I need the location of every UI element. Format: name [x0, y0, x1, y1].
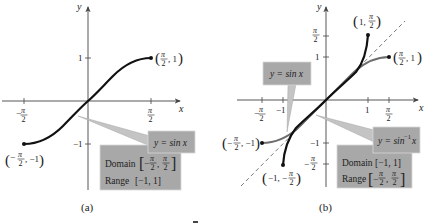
svg-text:[−1, 1]: [−1, 1]	[135, 176, 161, 186]
svg-text:2: 2	[370, 21, 374, 30]
svg-text:(: (	[155, 50, 160, 67]
svg-text:): )	[376, 13, 381, 30]
svg-text:2: 2	[19, 159, 23, 168]
svg-text:]: ]	[171, 155, 176, 172]
svg-text:Domain: Domain	[342, 158, 373, 168]
svg-text:2: 2	[380, 178, 384, 187]
endpoint-neg	[22, 142, 26, 146]
x-tick-label-b-pi-over-2: π 2	[386, 105, 393, 123]
svg-text:y = sin: y = sin	[377, 136, 405, 146]
panel-b: x y − π 2 −1 1 π 2 π 2 1	[222, 1, 424, 214]
svg-text:π: π	[313, 26, 318, 35]
svg-text:2: 2	[260, 114, 264, 123]
svg-text:2: 2	[312, 163, 316, 172]
y-tick-label-b-neg-pi-over-2: − π 2	[304, 154, 318, 172]
svg-text:π: π	[259, 105, 264, 114]
caption-a: (a)	[81, 201, 94, 214]
svg-text:−1, −: −1, −	[268, 173, 287, 183]
svg-text:π: π	[161, 50, 166, 59]
endpoint-b-4	[281, 163, 285, 167]
svg-text:1,: 1,	[359, 17, 366, 27]
svg-text:−: −	[227, 138, 232, 148]
equation-label-sin-b: y = sin x	[269, 69, 304, 79]
svg-text:): )	[178, 50, 183, 67]
y-tick-label-b-neg-1: −1	[310, 138, 320, 148]
x-tick-label-pi-over-2: π 2	[148, 106, 155, 124]
y-tick-label-1: 1	[78, 53, 83, 63]
x-tick-label-b-neg-1: −1	[276, 105, 286, 115]
y-tick-label-b-pi-over-2: π 2	[313, 26, 320, 44]
y-axis-label-b: y	[316, 1, 322, 12]
svg-text:Range: Range	[105, 176, 129, 186]
x-tick-label-b-1: 1	[365, 105, 370, 115]
point-label-1-pi-over-2: ( 1, π 2 )	[353, 12, 381, 30]
svg-text:2: 2	[164, 163, 168, 172]
svg-text:]: ]	[400, 171, 405, 188]
svg-text:π: π	[311, 154, 316, 163]
svg-text:2: 2	[400, 58, 404, 67]
svg-text:π: π	[399, 49, 404, 58]
svg-text:2: 2	[151, 163, 155, 172]
svg-text:−: −	[304, 159, 309, 169]
svg-text:(: (	[353, 13, 358, 30]
y-tick-label-b-1: 1	[315, 52, 320, 62]
svg-text:2: 2	[393, 178, 397, 187]
svg-text:−: −	[373, 174, 378, 184]
endpoint-pos	[149, 56, 153, 60]
equation-label: y = sin x	[153, 138, 188, 148]
svg-text:2: 2	[22, 115, 26, 124]
point-label-pi-over-2-1: ( π 2 , 1 )	[155, 50, 183, 68]
svg-text:π: π	[369, 12, 374, 21]
point-label-pi-over-2-1-b: ( π 2 , 1 )	[393, 49, 422, 67]
svg-text:(: (	[393, 49, 398, 66]
svg-text:(: (	[262, 170, 267, 187]
point-label-neg-pi-over-2-neg-1-b: ( − π 2 , −1 )	[222, 134, 260, 152]
panel-a: x y − π 2 π 2 1 −1 ( π 2 , 1	[2, 1, 195, 214]
svg-text:[−1, 1]: [−1, 1]	[375, 158, 401, 168]
svg-text:−1: −1	[404, 133, 411, 140]
svg-text:, −1: , −1	[241, 138, 255, 148]
svg-text:,: ,	[157, 159, 159, 169]
svg-text:−: −	[10, 152, 15, 162]
x-axis-label-b: x	[418, 102, 424, 113]
svg-text:Range: Range	[342, 174, 366, 184]
svg-text:2: 2	[290, 178, 294, 187]
svg-text:Domain: Domain	[105, 159, 136, 169]
callout-pointer	[78, 116, 150, 146]
svg-text:2: 2	[387, 114, 391, 123]
svg-text:2: 2	[314, 35, 318, 44]
svg-text:x: x	[411, 136, 417, 146]
x-tick-label-neg-pi-over-2: − π 2	[16, 106, 28, 124]
svg-text:): )	[296, 170, 301, 187]
x-axis-label: x	[178, 103, 184, 114]
svg-text:): )	[417, 49, 422, 66]
svg-text:−: −	[144, 158, 149, 168]
svg-text:2: 2	[235, 143, 239, 152]
figure-canvas: x y − π 2 π 2 1 −1 ( π 2 , 1	[0, 0, 431, 223]
y-axis-label: y	[76, 1, 82, 12]
svg-text:, −1: , −1	[25, 154, 39, 164]
svg-text:2: 2	[149, 115, 153, 124]
svg-text:π: π	[386, 105, 391, 114]
svg-text:2: 2	[162, 59, 166, 68]
svg-text:π: π	[234, 134, 239, 143]
svg-text:,: ,	[386, 174, 388, 184]
svg-text:): )	[255, 135, 260, 152]
x-tick-label-b-neg-pi-over-2: − π 2	[254, 105, 266, 123]
endpoint-b-3	[260, 141, 264, 145]
svg-text:π: π	[289, 169, 294, 178]
y-tick-label-neg-1: −1	[73, 139, 83, 149]
caption-b: (b)	[319, 201, 332, 214]
scan-artifact	[193, 221, 198, 223]
point-label-neg-1-neg-pi-over-2: ( −1, − π 2 )	[262, 169, 301, 187]
svg-text:π: π	[21, 106, 26, 115]
endpoint-b-1	[366, 33, 370, 37]
point-label-neg-pi-over-2-neg-1: ( − π 2 , −1 )	[5, 150, 44, 169]
svg-text:): )	[39, 152, 44, 169]
svg-text:π: π	[148, 106, 153, 115]
callout-pointer-arcsin	[316, 115, 374, 142]
domain-line-b: Domain [−1, 1]	[342, 158, 401, 168]
svg-text:π: π	[18, 150, 23, 159]
svg-text:, 1: , 1	[168, 54, 177, 64]
callout-pointer-sin-b	[287, 84, 296, 132]
